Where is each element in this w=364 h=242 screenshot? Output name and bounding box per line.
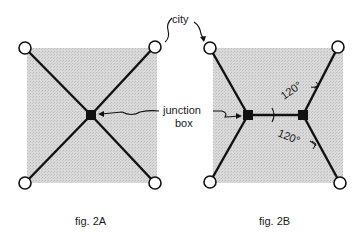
junction-box-label-line1: junction xyxy=(162,104,201,116)
city-icon-2a-nw xyxy=(19,42,31,54)
city-icon-2b-se xyxy=(334,177,346,189)
city-icon-2a-ne xyxy=(149,41,161,53)
city-icon-2a-sw xyxy=(19,177,31,189)
figure-2b xyxy=(204,41,346,189)
junction-box-2a xyxy=(86,110,96,120)
city-icon-2b-sw xyxy=(204,176,216,188)
caption-fig-2b: fig. 2B xyxy=(259,215,290,227)
figure-svg: city junction box 120° 120° fig. 2A fig.… xyxy=(0,0,364,242)
junction-box-2b-left xyxy=(243,110,253,120)
city-icon-2b-nw xyxy=(204,42,216,54)
city-arrowhead-icon xyxy=(200,36,206,42)
figure-2a xyxy=(19,41,161,189)
city-leader-left-icon xyxy=(165,18,172,42)
junction-box-2b-right xyxy=(298,110,308,120)
caption-fig-2a: fig. 2A xyxy=(75,215,107,227)
diagram-canvas: city junction box 120° 120° fig. 2A fig.… xyxy=(0,0,364,242)
city-icon-2b-ne xyxy=(332,41,344,53)
junction-box-label-line2: box xyxy=(175,117,193,129)
city-icon-2a-se xyxy=(149,177,161,189)
city-label: city xyxy=(172,13,189,25)
